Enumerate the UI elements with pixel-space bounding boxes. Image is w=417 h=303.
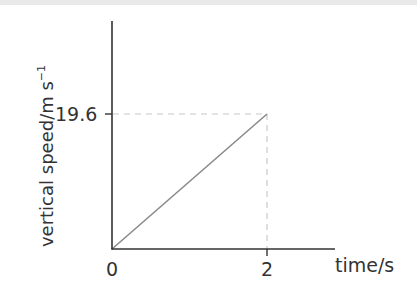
y-axis-exponent: −1 [35, 65, 48, 81]
speed-line [112, 114, 267, 249]
y-axis-title-text: vertical speed/m s [36, 81, 57, 247]
x-axis-title: time/s [335, 256, 394, 275]
y-axis-title: vertical speed/m s−1 [35, 65, 57, 247]
x-tick-label-2: 2 [261, 260, 273, 279]
x-tick-label-0: 0 [106, 260, 118, 279]
y-tick-label: 19.6 [55, 105, 97, 124]
